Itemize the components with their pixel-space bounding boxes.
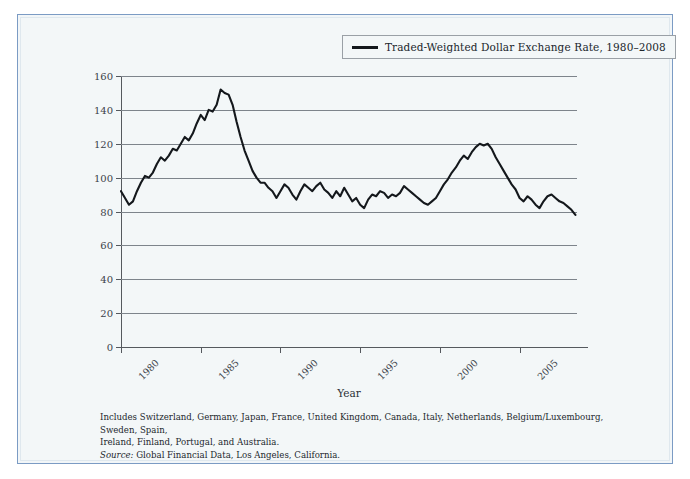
series-line-chart	[121, 76, 591, 351]
x-axis-title: Year	[121, 387, 577, 399]
source-label: Source:	[100, 450, 134, 460]
y-tick-label: 0	[107, 342, 113, 353]
x-tick-label: 2000	[455, 357, 480, 382]
y-tick-label: 20	[100, 308, 113, 319]
y-tick-label: 80	[100, 206, 113, 217]
y-tick-label: 140	[94, 104, 113, 115]
y-tick-label: 100	[94, 172, 113, 183]
chart-footnote: Includes Switzerland, Germany, Japan, Fr…	[100, 411, 640, 461]
footnote-source: Source: Global Financial Data, Los Angel…	[100, 449, 640, 462]
figure-panel: Traded-Weighted Dollar Exchange Rate, 19…	[17, 14, 673, 464]
x-tick-label: 1980	[136, 357, 161, 382]
x-tick-label: 1985	[216, 357, 241, 382]
line-swatch-icon	[352, 46, 378, 49]
y-tick-label: 120	[94, 138, 113, 149]
x-tick-label: 2005	[535, 357, 560, 382]
y-tick-label: 60	[100, 240, 113, 251]
x-tick-label: 1995	[375, 357, 400, 382]
footnote-line-2: Ireland, Finland, Portugal, and Australi…	[100, 436, 640, 449]
footnote-line-1: Includes Switzerland, Germany, Japan, Fr…	[100, 411, 640, 436]
series-polyline	[121, 90, 575, 215]
chart-legend: Traded-Weighted Dollar Exchange Rate, 19…	[342, 35, 676, 59]
source-text: Global Financial Data, Los Angeles, Cali…	[134, 450, 341, 460]
x-tick-label: 1990	[296, 357, 321, 382]
y-tick-label: 40	[100, 274, 113, 285]
plot-area: 020406080100120140160 198019851990199520…	[121, 76, 577, 347]
figure-inner-panel: Traded-Weighted Dollar Exchange Rate, 19…	[20, 17, 670, 461]
legend-label: Traded-Weighted Dollar Exchange Rate, 19…	[385, 41, 666, 53]
y-tick-label: 160	[94, 71, 113, 82]
